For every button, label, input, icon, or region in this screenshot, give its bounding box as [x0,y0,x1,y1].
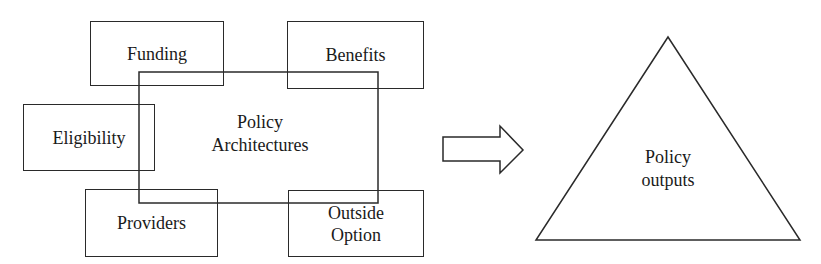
funding-label: Funding [127,43,187,65]
outside-option-label: Outside Option [328,202,384,246]
providers-label: Providers [117,212,186,234]
providers-box: Providers [85,189,218,257]
eligibility-box: Eligibility [23,104,155,171]
right-block-arrow-icon [443,126,523,173]
eligibility-label: Eligibility [52,127,125,149]
outside-option-box: Outside Option [288,190,424,257]
policy-architectures-label: Policy Architectures [180,111,340,157]
policy-outputs-triangle [536,37,800,240]
policy-architecture-diagram: Funding Benefits Eligibility Providers O… [0,0,821,264]
funding-box: Funding [90,21,224,86]
benefits-label: Benefits [326,44,386,66]
policy-outputs-label: Policy outputs [608,146,728,192]
benefits-box: Benefits [287,21,424,89]
